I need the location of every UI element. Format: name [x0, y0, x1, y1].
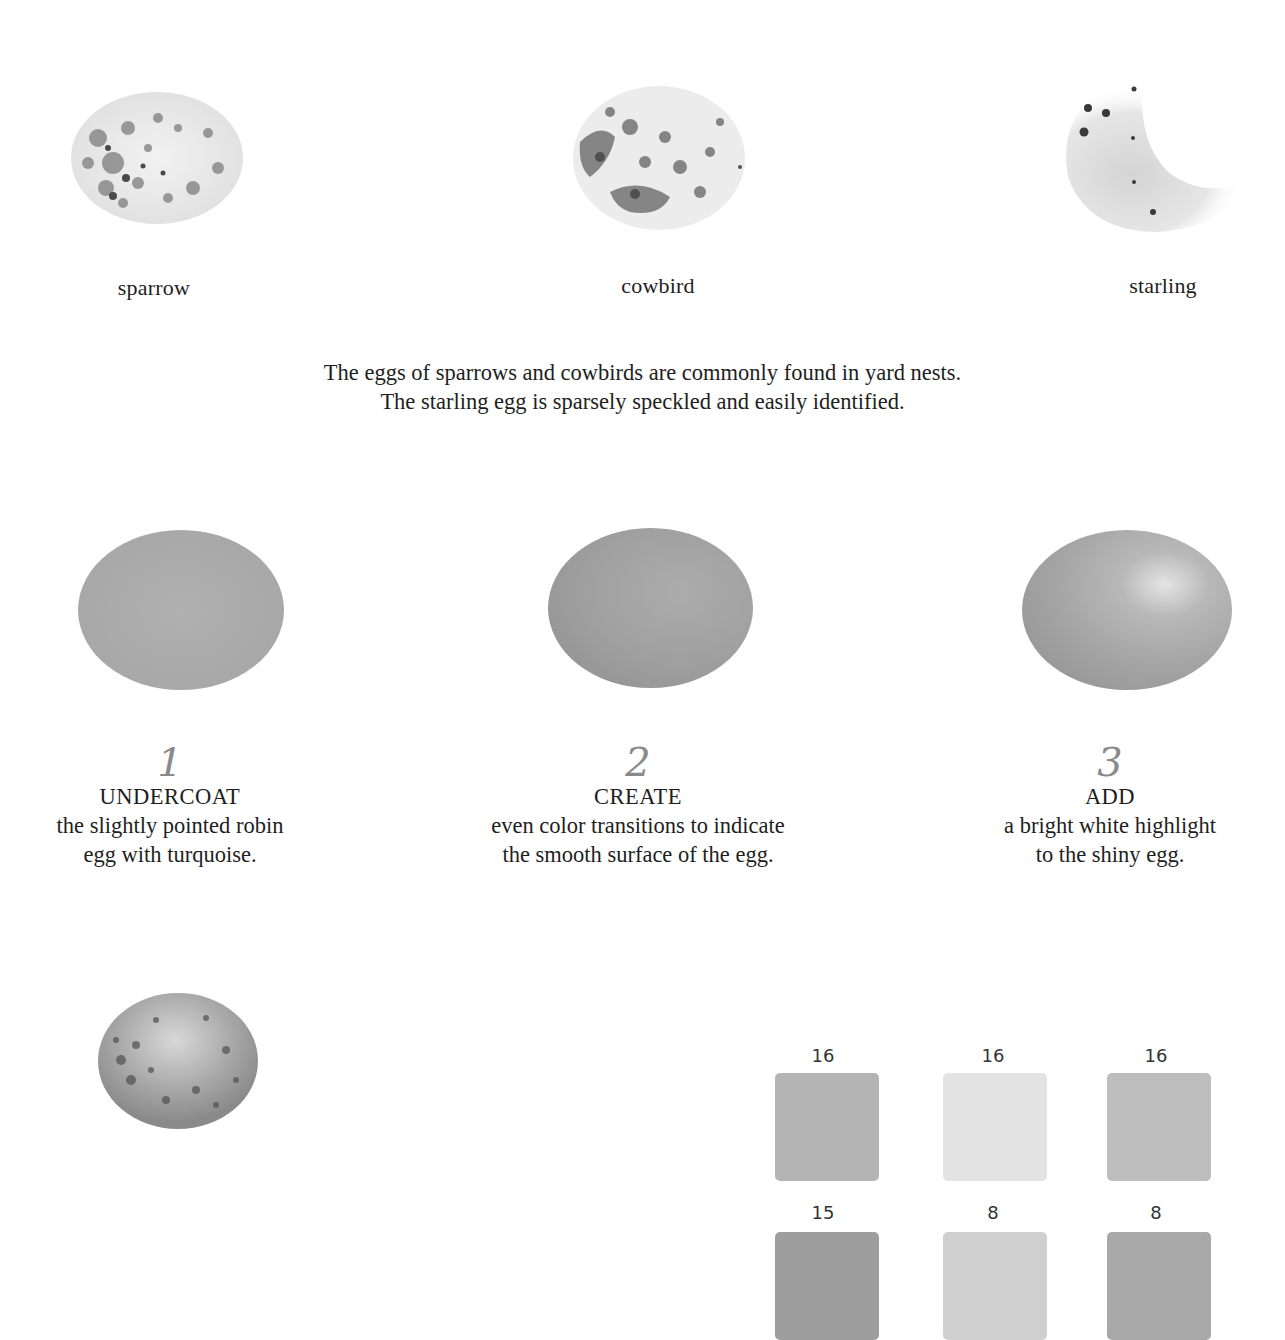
color-swatch-3 — [1107, 1073, 1211, 1181]
swatch-3-number: 16 — [1104, 1045, 1208, 1066]
swatch-6-number: 8 — [1104, 1202, 1208, 1223]
step-1-line-1: the slightly pointed robin — [10, 811, 330, 840]
cowbird-label: cowbird — [538, 273, 778, 299]
speckled-egg-illustration — [96, 990, 260, 1132]
color-swatch-6 — [1107, 1232, 1211, 1340]
starling-egg-illustration — [1058, 82, 1258, 238]
step-1: 1 UNDERCOAT the slightly pointed robin e… — [10, 742, 330, 869]
cowbird-egg-illustration — [570, 82, 748, 234]
step-1-line-2: egg with turquoise. — [10, 840, 330, 869]
color-swatch-4 — [775, 1232, 879, 1340]
caption-line-2: The starling egg is sparsely speckled an… — [0, 387, 1285, 416]
swatch-1-number: 16 — [771, 1045, 875, 1066]
step-1-number: 1 — [10, 742, 330, 782]
color-swatch-1 — [775, 1073, 879, 1181]
step3-egg-illustration — [1022, 530, 1232, 690]
caption: The eggs of sparrows and cowbirds are co… — [0, 358, 1285, 416]
step-3-number: 3 — [960, 742, 1260, 782]
swatch-5-number: 8 — [941, 1202, 1045, 1223]
sparrow-egg-illustration — [68, 88, 246, 228]
starling-label: starling — [1043, 273, 1283, 299]
swatch-4-number: 15 — [771, 1202, 875, 1223]
step-1-heading: UNDERCOAT — [10, 782, 330, 811]
step-2-heading: CREATE — [438, 782, 838, 811]
step1-egg-illustration — [78, 530, 284, 690]
step-3: 3 ADD a bright white highlight to the sh… — [960, 742, 1260, 869]
step-3-heading: ADD — [960, 782, 1260, 811]
step-2-number: 2 — [438, 742, 838, 782]
color-swatch-5 — [943, 1232, 1047, 1340]
step2-egg-illustration — [548, 528, 753, 688]
step-2: 2 CREATE even color transitions to indic… — [438, 742, 838, 869]
sparrow-label: sparrow — [34, 275, 274, 301]
caption-line-1: The eggs of sparrows and cowbirds are co… — [0, 358, 1285, 387]
color-swatch-2 — [943, 1073, 1047, 1181]
step-2-line-1: even color transitions to indicate — [438, 811, 838, 840]
step-3-line-2: to the shiny egg. — [960, 840, 1260, 869]
step-2-line-2: the smooth surface of the egg. — [438, 840, 838, 869]
swatch-2-number: 16 — [941, 1045, 1045, 1066]
step-3-line-1: a bright white highlight — [960, 811, 1260, 840]
